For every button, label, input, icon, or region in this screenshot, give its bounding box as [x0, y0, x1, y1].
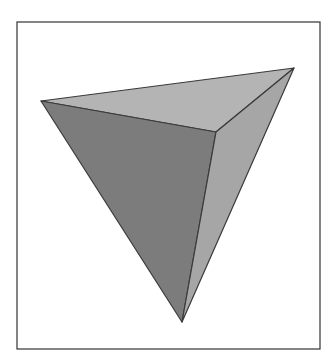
tetrahedron-diagram	[0, 0, 336, 357]
